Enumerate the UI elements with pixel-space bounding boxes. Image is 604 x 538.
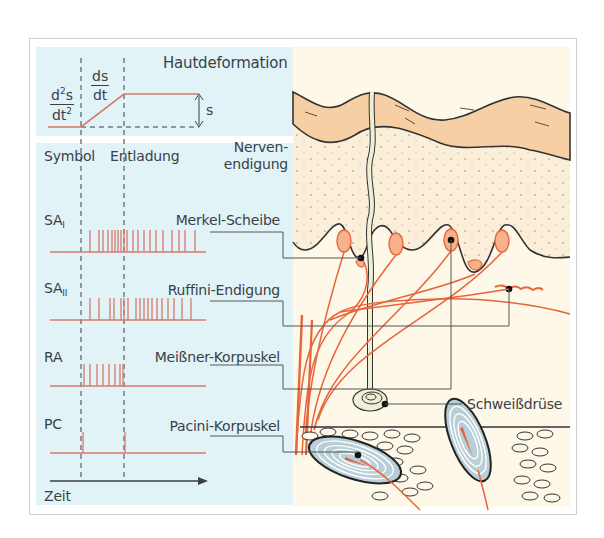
symbol-ra: RA	[44, 350, 62, 364]
amplitude-label: s	[206, 103, 213, 117]
ending-pacini: Pacini-Korpuskel	[150, 419, 280, 433]
symbol-sa1: SAI	[44, 213, 65, 230]
ending-merkel: Merkel-Scheibe	[150, 213, 280, 227]
time-axis	[50, 477, 208, 485]
ending-meissner: Meißner-Korpuskel	[130, 350, 280, 364]
column-header-nerve-ending-1: Nerven-	[220, 140, 288, 154]
acceleration-fraction: d2s dt2	[50, 87, 74, 122]
ending-ruffini: Ruffini-Endigung	[150, 283, 280, 297]
column-header-discharge: Entladung	[110, 149, 179, 163]
deformation-title: Hautdeformation	[163, 56, 288, 71]
column-header-nerve-ending-2: endigung	[210, 157, 288, 171]
time-axis-label: Zeit	[44, 489, 71, 503]
symbol-sa2: SAII	[44, 281, 67, 298]
velocity-fraction: ds dt	[91, 69, 109, 102]
column-header-symbol: Symbol	[44, 149, 95, 163]
symbol-pc: PC	[44, 417, 62, 431]
sweat-gland-label: Schweißdrüse	[467, 397, 562, 411]
